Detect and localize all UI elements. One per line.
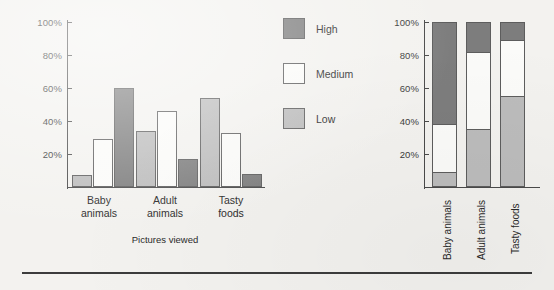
legend-item-high[interactable]: High (283, 18, 338, 39)
stacked-bar-tasty[interactable] (500, 22, 525, 187)
bar-adult-low[interactable] (136, 131, 156, 187)
left-chart-xlabel-tasty: Tasty foods (198, 194, 264, 219)
legend-label-low: Low (316, 113, 335, 125)
left-chart-plot-area (68, 22, 258, 187)
chart-legend: High Medium Low (283, 18, 378, 138)
right-chart-xlabel-baby: Baby animals (442, 200, 453, 260)
grouped-bar-chart: 100% 80% 60% 40% 20% Baby animals Adult (0, 0, 280, 260)
stacked-bar-chart: 100% 80% 60% 40% 20% (378, 0, 554, 272)
stack-seg-baby-medium (432, 125, 457, 173)
bar-baby-high[interactable] (114, 88, 134, 187)
legend-label-medium: Medium (316, 68, 353, 80)
stack-seg-baby-low (432, 173, 457, 187)
legend-item-medium[interactable]: Medium (283, 63, 353, 84)
footer-divider (22, 272, 532, 274)
stack-seg-baby-high (432, 22, 457, 125)
bar-tasty-low[interactable] (200, 98, 220, 187)
right-chart-ytick-60: 60% (376, 83, 419, 94)
right-chart-xlabel-adult: Adult animals (476, 200, 487, 260)
right-chart-ytick-80: 80% (376, 50, 419, 61)
right-chart-plot-area (425, 22, 533, 187)
stack-seg-tasty-medium (500, 41, 525, 97)
legend-swatch-medium (283, 63, 305, 84)
bar-tasty-high[interactable] (242, 174, 262, 187)
left-chart-xlabel-baby: Baby animals (66, 194, 132, 219)
bar-tasty-medium[interactable] (221, 133, 241, 187)
legend-swatch-low (283, 108, 305, 129)
legend-swatch-high (283, 18, 305, 39)
left-chart-x-axis (67, 187, 265, 188)
right-chart-x-axis (424, 187, 540, 188)
stack-seg-adult-medium (466, 53, 491, 131)
right-chart-ytick-40: 40% (376, 116, 419, 127)
bar-adult-high[interactable] (178, 159, 198, 187)
stack-seg-tasty-high (500, 22, 525, 41)
bar-baby-medium[interactable] (93, 139, 113, 187)
left-chart-axis-title: Pictures viewed (66, 234, 264, 245)
stacked-bar-baby[interactable] (432, 22, 457, 187)
bar-baby-low[interactable] (72, 175, 92, 187)
left-chart-ytick-40: 40% (18, 116, 62, 127)
stack-seg-adult-high (466, 22, 491, 53)
legend-item-low[interactable]: Low (283, 108, 335, 129)
left-chart-ytick-60: 60% (18, 83, 62, 94)
left-chart-ytick-20: 20% (18, 149, 62, 160)
left-chart-xlabel-adult: Adult animals (132, 194, 198, 219)
right-chart-ytick-100: 100% (376, 17, 419, 28)
stack-seg-tasty-low (500, 97, 525, 187)
right-chart-xlabel-tasty: Tasty foods (510, 203, 521, 254)
left-chart-ytick-100: 100% (18, 17, 62, 28)
stack-seg-adult-low (466, 130, 491, 187)
figure-container: 100% 80% 60% 40% 20% Baby animals Adult (0, 0, 554, 290)
bar-adult-medium[interactable] (157, 111, 177, 187)
right-chart-ytick-20: 20% (376, 149, 419, 160)
legend-label-high: High (316, 23, 338, 35)
stacked-bar-adult[interactable] (466, 22, 491, 187)
left-chart-ytick-80: 80% (18, 50, 62, 61)
